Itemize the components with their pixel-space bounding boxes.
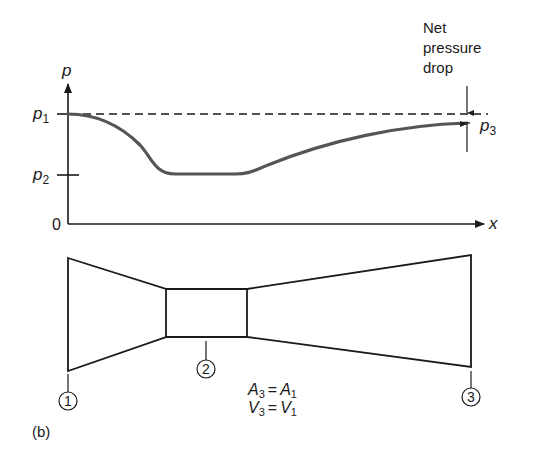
svg-text:A3=A1: A3=A1 (247, 381, 297, 400)
p3-label: p3 (479, 116, 496, 138)
svg-text:Net: Net (423, 19, 447, 36)
panel-label: (b) (32, 423, 50, 440)
svg-text:2: 2 (202, 361, 210, 377)
station-1-marker: 1 (59, 374, 77, 410)
y-axis-label: p (61, 61, 71, 80)
origin-label: 0 (52, 216, 61, 233)
x-axis-label: x (488, 214, 498, 233)
p2-label: p2 (32, 165, 49, 187)
area-equation: A3=A1 (247, 381, 297, 400)
diverging-section (247, 255, 471, 367)
svg-text:drop: drop (423, 59, 453, 76)
net-pressure-drop-annotation: Net pressure drop (423, 19, 481, 76)
velocity-equation: V3=V1 (248, 399, 297, 418)
svg-text:3: 3 (467, 389, 475, 405)
station-3-marker: 3 (462, 371, 480, 406)
svg-text:pressure: pressure (423, 39, 481, 56)
station-2-marker: 2 (197, 341, 215, 378)
p1-label: p1 (32, 104, 49, 126)
converging-section (68, 258, 166, 371)
svg-text:V3=V1: V3=V1 (248, 399, 297, 418)
venturi-pressure-figure: p x 0 p1 p2 p3 Net pressure drop 1 (0, 0, 533, 459)
svg-text:1: 1 (64, 393, 72, 409)
pressure-plot: p x 0 p1 p2 p3 Net pressure drop (32, 19, 498, 233)
venturi-tube (68, 255, 471, 371)
pressure-curve (68, 114, 467, 174)
throat-section (166, 289, 247, 337)
